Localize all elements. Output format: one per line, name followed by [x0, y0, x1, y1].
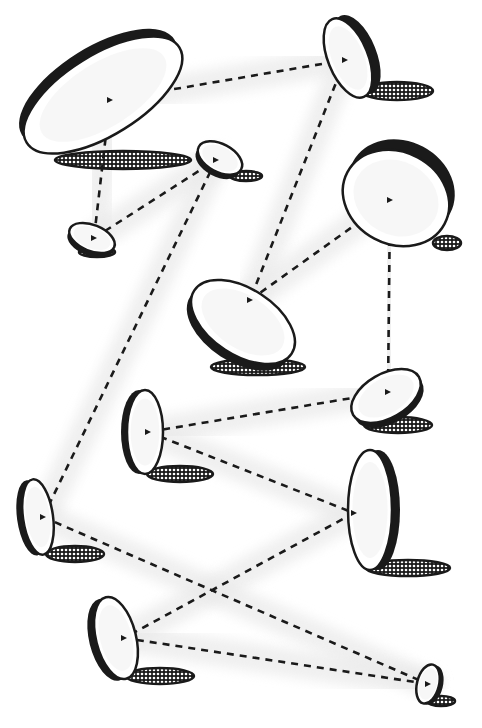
mirror-disc-d8 [121, 390, 163, 474]
disc-shadow [433, 236, 461, 250]
mirror-disc-d9 [348, 450, 400, 570]
disc-shadow [147, 466, 213, 482]
disc-shadow [46, 546, 104, 562]
disc-shadow [55, 151, 191, 169]
mirror-array-illustration [0, 0, 482, 728]
disc-shadow [126, 668, 194, 684]
mirror-disc-d11 [80, 592, 146, 685]
